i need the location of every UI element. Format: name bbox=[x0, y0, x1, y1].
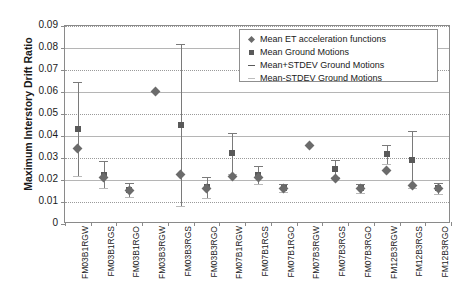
error-bar-upper-cap bbox=[331, 160, 340, 161]
y-tick-mark bbox=[61, 180, 65, 181]
error-bar-upper-cap bbox=[176, 44, 185, 45]
error-bar-upper-cap bbox=[202, 177, 211, 178]
gridline bbox=[65, 158, 449, 159]
error-bar-lower-cap bbox=[254, 184, 263, 185]
legend-item-3: Mean-STDEV Ground Motions bbox=[245, 72, 433, 85]
error-bar-lower-cap bbox=[202, 198, 211, 199]
error-bar-upper-cap bbox=[73, 82, 82, 83]
y-tick-label: 0.04 bbox=[12, 130, 58, 140]
y-tick-label: 0.08 bbox=[12, 42, 58, 52]
y-tick-label: 0.01 bbox=[12, 196, 58, 206]
diamond-data-marker bbox=[330, 174, 340, 184]
y-tick-mark bbox=[61, 136, 65, 137]
error-bar-lower-cap bbox=[99, 188, 108, 189]
square-data-marker bbox=[75, 126, 81, 132]
x-tick-label: FM12B3RGS bbox=[415, 226, 424, 277]
legend-item-label: Mean Ground Motions bbox=[258, 47, 349, 57]
diamond-marker-icon bbox=[245, 37, 258, 42]
error-bar-lower-cap bbox=[176, 206, 185, 207]
legend-item-1: Mean Ground Motions bbox=[245, 46, 433, 59]
error-bar-upper-cap bbox=[99, 161, 108, 162]
chart-figure: Maximum Interstory Drift Ratio 00.010.02… bbox=[0, 0, 462, 303]
y-axis-tick-labels: 00.010.020.030.040.050.060.070.080.09 bbox=[0, 0, 60, 303]
y-tick-label: 0.03 bbox=[12, 152, 58, 162]
gridline bbox=[65, 26, 449, 27]
x-tick-label: FM12B3RGO bbox=[441, 226, 450, 278]
y-tick-mark bbox=[61, 114, 65, 115]
error-bar-upper-cap bbox=[125, 183, 134, 184]
x-tick-label: FM03B1RGS bbox=[107, 226, 116, 277]
chart-legend: Mean ET acceleration functions Mean Grou… bbox=[239, 29, 438, 82]
error-bar-upper-cap bbox=[254, 166, 263, 167]
square-marker-icon bbox=[245, 50, 258, 55]
y-tick-label: 0.07 bbox=[12, 64, 58, 74]
gridline bbox=[65, 114, 449, 115]
x-tick-label: FM12B3RGW bbox=[390, 226, 399, 279]
dash-light-marker-icon bbox=[245, 78, 258, 79]
square-data-marker bbox=[409, 157, 415, 163]
x-tick-label: FM03B3RGO bbox=[210, 226, 219, 278]
x-tick-label: FM07B3RGO bbox=[364, 226, 373, 278]
x-tick-label: FM03B3RGS bbox=[184, 226, 193, 277]
error-bar-lower-cap bbox=[434, 194, 443, 195]
x-tick-label: FM03B3RGW bbox=[158, 226, 167, 279]
diamond-data-marker bbox=[382, 166, 392, 176]
gridline bbox=[65, 202, 449, 203]
y-tick-mark bbox=[61, 26, 65, 27]
y-tick-mark bbox=[61, 92, 65, 93]
gridline bbox=[65, 92, 449, 93]
y-tick-label: 0.05 bbox=[12, 108, 58, 118]
y-tick-mark bbox=[61, 202, 65, 203]
legend-item-label: Mean-STDEV Ground Motions bbox=[258, 73, 382, 83]
x-tick-label: FM07B1RGS bbox=[261, 226, 270, 277]
x-tick-label: FM07B3RGS bbox=[338, 226, 347, 277]
y-tick-label: 0.06 bbox=[12, 86, 58, 96]
error-bar-upper-cap bbox=[228, 133, 237, 134]
square-data-marker bbox=[332, 166, 338, 172]
x-tick-label: FM07B1RGW bbox=[235, 226, 244, 279]
y-tick-mark bbox=[61, 48, 65, 49]
legend-item-0: Mean ET acceleration functions bbox=[245, 33, 433, 46]
error-bar-upper-cap bbox=[382, 145, 391, 146]
x-tick-label: FM07B3RGW bbox=[312, 226, 321, 279]
legend-item-label: Mean+STDEV Ground Motions bbox=[258, 60, 384, 70]
diamond-data-marker bbox=[305, 141, 315, 151]
error-bar-lower-cap bbox=[73, 176, 82, 177]
legend-item-label: Mean ET acceleration functions bbox=[258, 34, 386, 44]
diamond-data-marker bbox=[176, 170, 186, 180]
x-tick-label: FM07B1RGO bbox=[287, 226, 296, 278]
error-bar-lower-cap bbox=[382, 164, 391, 165]
y-tick-label: 0 bbox=[12, 218, 58, 228]
square-data-marker bbox=[384, 151, 390, 157]
x-axis-tick-labels: FM03B1RGWFM03B1RGSFM03B1RGOFM03B3RGWFM03… bbox=[64, 226, 450, 303]
x-tick-mark bbox=[451, 222, 452, 226]
square-data-marker bbox=[229, 150, 235, 156]
diamond-data-marker bbox=[150, 87, 160, 97]
error-bar-upper-cap bbox=[408, 131, 417, 132]
square-data-marker bbox=[178, 122, 184, 128]
diamond-data-marker bbox=[73, 143, 83, 153]
gridline bbox=[65, 136, 449, 137]
y-tick-mark bbox=[61, 70, 65, 71]
y-tick-label: 0.02 bbox=[12, 174, 58, 184]
y-tick-mark bbox=[61, 158, 65, 159]
dash-marker-icon bbox=[245, 65, 258, 66]
x-tick-label: FM03B1RGW bbox=[81, 226, 90, 279]
error-bar-lower-cap bbox=[125, 197, 134, 198]
y-tick-label: 0.09 bbox=[12, 20, 58, 30]
x-tick-label: FM03B1RGO bbox=[132, 226, 141, 278]
legend-item-2: Mean+STDEV Ground Motions bbox=[245, 59, 433, 72]
